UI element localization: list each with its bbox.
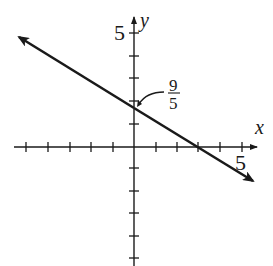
intercept-denominator: 5 <box>169 95 178 112</box>
x-axis-label: x <box>255 117 264 137</box>
intercept-numerator: 9 <box>169 77 178 94</box>
y-tick-label-5: 5 <box>114 22 125 44</box>
intercept-pointer <box>139 92 164 104</box>
graph-line <box>19 37 134 108</box>
coordinate-plane <box>0 0 273 266</box>
y-axis-label: y <box>140 10 149 30</box>
x-tick-label-5: 5 <box>235 152 246 174</box>
graph-figure: 5 y x 5 9 5 <box>0 0 273 266</box>
